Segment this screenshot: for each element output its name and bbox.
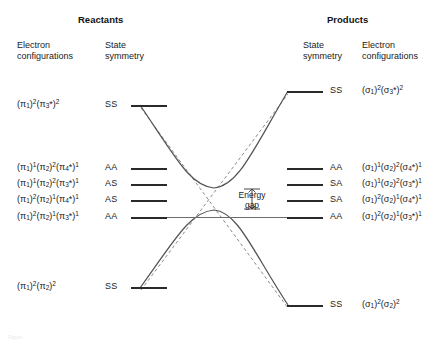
- left-config-column-label-line2: configurations: [17, 51, 73, 62]
- left-symmetry-column-label: State symmetry: [105, 40, 144, 61]
- product-electron-configuration: (σ1)2(σ3*)2: [362, 84, 403, 95]
- product-state-symmetry: AA: [330, 211, 342, 221]
- product-level-bar: [287, 184, 323, 186]
- right-symmetry-column-label-line1: State: [303, 40, 342, 51]
- product-level-bar: [287, 217, 323, 219]
- product-electron-configuration: (σ1)1(σ2)2(σ3*)1: [362, 177, 422, 188]
- figure-caption: Figure: [8, 334, 22, 340]
- reactant-electron-configuration: (π1)2(π2)2: [17, 280, 56, 291]
- right-symmetry-column-label: State symmetry: [303, 40, 342, 61]
- reactant-state-symmetry: AS: [105, 178, 117, 188]
- right-config-column-label-line2: configurations: [362, 51, 418, 62]
- reactant-state-symmetry: AS: [105, 194, 117, 204]
- reactants-header: Reactants: [78, 14, 123, 25]
- reactant-state-symmetry: AA: [105, 162, 117, 172]
- reactant-electron-configuration: (π1)2(π2)1(π4*)1: [17, 193, 79, 204]
- product-state-symmetry: SS: [330, 85, 342, 95]
- reactant-level-bar: [131, 105, 167, 107]
- reactant-level-bar: [131, 184, 167, 186]
- reactant-state-symmetry: SS: [105, 281, 117, 291]
- product-state-symmetry: SA: [330, 178, 342, 188]
- product-electron-configuration: (σ1)2(σ2)1(σ4*)1: [362, 193, 422, 204]
- reactant-level-bar: [131, 217, 167, 219]
- products-header: Products: [327, 14, 368, 25]
- reactant-state-symmetry: AA: [105, 211, 117, 221]
- energy-gap-label: Energy gap: [228, 190, 276, 210]
- state-correlation-diagram: Reactants Products Electron configuratio…: [0, 0, 448, 349]
- reactant-electron-configuration: (π1)1(π2)2(π3*)1: [17, 177, 79, 188]
- product-state-symmetry: SA: [330, 194, 342, 204]
- product-level-bar: [287, 305, 323, 307]
- product-level-bar: [287, 91, 323, 93]
- energy-gap-label-line1: Energy: [228, 190, 276, 200]
- right-config-column-label-line1: Electron: [362, 40, 418, 51]
- product-level-bar: [287, 200, 323, 202]
- reactant-level-bar: [131, 168, 167, 170]
- product-electron-configuration: (σ1)2(σ2)1(σ3*)1: [362, 210, 422, 221]
- product-state-symmetry: AA: [330, 162, 342, 172]
- right-symmetry-column-label-line2: symmetry: [303, 51, 342, 62]
- reactant-electron-configuration: (π1)1(π2)2(π4*)1: [17, 161, 79, 172]
- left-config-column-label: Electron configurations: [17, 40, 73, 61]
- reactant-state-symmetry: SS: [105, 99, 117, 109]
- product-state-symmetry: SS: [330, 299, 342, 309]
- reactant-electron-configuration: (π1)2(π3*)2: [17, 98, 59, 109]
- left-config-column-label-line1: Electron: [17, 40, 73, 51]
- left-symmetry-column-label-line2: symmetry: [105, 51, 144, 62]
- energy-gap-label-line2: gap: [228, 200, 276, 210]
- product-level-bar: [287, 168, 323, 170]
- reactant-level-bar: [131, 287, 167, 289]
- product-electron-configuration: (σ1)1(σ2)2(σ4*)1: [362, 161, 422, 172]
- adiabatic-lower-branch: [140, 210, 288, 305]
- product-electron-configuration: (σ1)2(σ2)2: [362, 298, 400, 309]
- left-symmetry-column-label-line1: State: [105, 40, 144, 51]
- right-config-column-label: Electron configurations: [362, 40, 418, 61]
- reactant-level-bar: [131, 200, 167, 202]
- reactant-electron-configuration: (π1)2(π2)1(π3*)1: [17, 210, 79, 221]
